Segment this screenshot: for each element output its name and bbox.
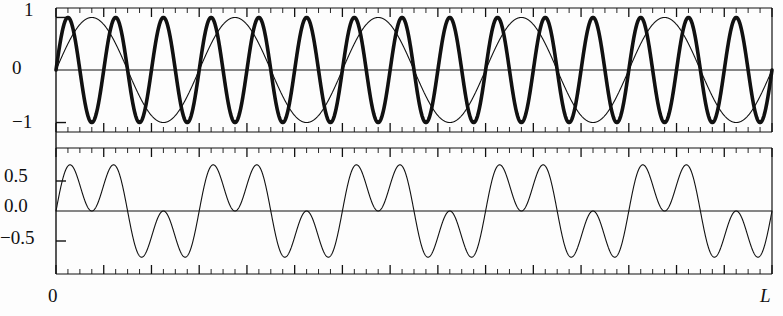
figure-container: 1 0 −1 0.5 0.0 −0.5 0 L bbox=[0, 0, 783, 316]
y-label-top-neg1: −1 bbox=[12, 112, 32, 131]
plot-svg bbox=[0, 0, 783, 316]
y-label-bottom-05: 0.5 bbox=[4, 166, 28, 185]
y-label-bottom-0: 0.0 bbox=[4, 196, 28, 215]
curve-superposition bbox=[56, 165, 772, 257]
x-label-end: L bbox=[760, 286, 771, 305]
y-label-top-1: 1 bbox=[24, 0, 34, 19]
x-label-origin: 0 bbox=[48, 286, 58, 305]
y-label-top-0: 0 bbox=[12, 58, 22, 77]
y-label-bottom-neg05: −0.5 bbox=[0, 228, 34, 247]
